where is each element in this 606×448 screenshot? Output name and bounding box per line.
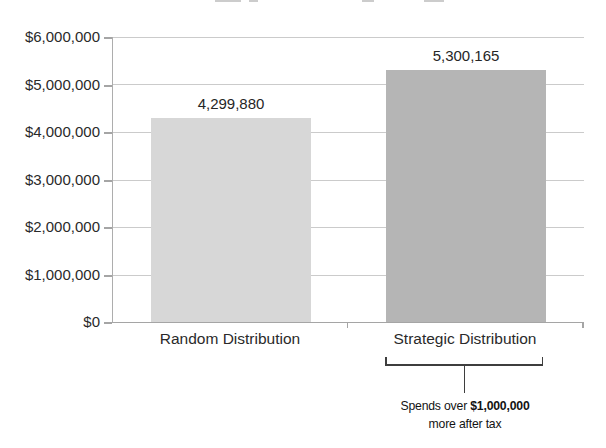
y-axis-tick — [104, 275, 112, 277]
value-label-strategic-distribution: 5,300,165 — [386, 47, 546, 64]
y-axis-tick-label: $0 — [0, 313, 100, 331]
y-axis-tick — [104, 37, 112, 39]
cropped-title-remnant — [215, 0, 241, 2]
gridline — [113, 37, 584, 38]
category-label-random-distribution: Random Distribution — [112, 330, 348, 348]
bracket-stem — [464, 364, 466, 393]
y-axis-tick — [104, 85, 112, 87]
annotation-line-2: more after tax — [352, 416, 578, 431]
y-axis-labels: $6,000,000 $5,000,000 $4,000,000 $3,000,… — [0, 0, 100, 448]
y-axis-tick — [104, 322, 112, 324]
y-axis-tick — [104, 227, 112, 229]
x-axis-tick — [582, 322, 584, 328]
cropped-title-remnant — [249, 0, 258, 2]
value-label-random-distribution: 4,299,880 — [151, 95, 311, 112]
annotation-line-1: Spends over $1,000,000 — [352, 398, 578, 413]
y-axis-tick-label: $4,000,000 — [0, 123, 100, 141]
bar-chart: $6,000,000 $5,000,000 $4,000,000 $3,000,… — [0, 0, 606, 448]
y-axis-tick — [104, 180, 112, 182]
x-axis-tick — [347, 322, 349, 328]
bar-strategic-distribution — [386, 70, 546, 322]
annotation-text-regular: Spends over — [400, 398, 470, 413]
annotation-text-bold: $1,000,000 — [470, 398, 529, 413]
cropped-title-remnant — [424, 0, 444, 2]
y-axis-tick-label: $1,000,000 — [0, 266, 100, 284]
category-label-strategic-distribution: Strategic Distribution — [347, 330, 583, 348]
bar-random-distribution — [151, 118, 311, 322]
y-axis-tick-label: $5,000,000 — [0, 76, 100, 94]
bracket-right-end — [542, 357, 544, 365]
cropped-title-remnant — [362, 0, 374, 2]
y-axis-tick-label: $3,000,000 — [0, 171, 100, 189]
plot-area: 4,299,880 5,300,165 — [112, 37, 584, 323]
y-axis-tick-label: $2,000,000 — [0, 218, 100, 236]
y-axis-tick — [104, 132, 112, 134]
y-axis-tick-label: $6,000,000 — [0, 28, 100, 46]
